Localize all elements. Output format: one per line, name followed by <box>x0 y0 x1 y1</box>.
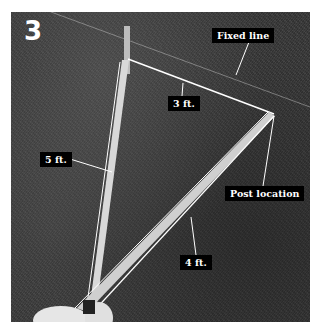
label-three-ft: 3 ft. <box>168 96 200 111</box>
measurement-lines <box>11 12 310 322</box>
label-fixed-line: Fixed line <box>212 28 274 43</box>
label-five-ft: 5 ft. <box>40 152 72 167</box>
tape-measure-icon <box>83 300 95 314</box>
grass-photo: 3 Fixed line 3 ft. 5 ft. Post location 4… <box>11 12 310 322</box>
label-post-location: Post location <box>225 186 304 201</box>
label-four-ft: 4 ft. <box>180 255 212 270</box>
step-number: 3 <box>24 18 42 44</box>
fixed-string <box>51 12 310 107</box>
